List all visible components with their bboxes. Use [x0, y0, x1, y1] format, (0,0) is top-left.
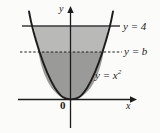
curve-equation-base: y = x: [95, 69, 118, 81]
y-axis-arrowhead: [67, 6, 73, 13]
label-axis-y: y: [59, 4, 63, 14]
x-axis-arrowhead: [130, 96, 137, 102]
label-line-y-equals-b: y = b: [124, 46, 147, 57]
label-line-y-equals-4: y = 4: [123, 21, 146, 32]
parabola-figure: y = 4 y = b y = x2 y x 0: [0, 0, 160, 133]
label-origin: 0: [60, 100, 66, 111]
curve-equation-exponent: 2: [118, 68, 122, 76]
label-curve-equation: y = x2: [95, 69, 121, 81]
label-axis-x: x: [126, 101, 130, 111]
